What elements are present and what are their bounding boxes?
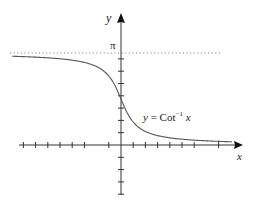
x-axis-arrow-icon bbox=[234, 141, 243, 149]
curve-label-arg: x bbox=[183, 111, 191, 123]
y-axis-arrow-icon bbox=[117, 13, 125, 23]
pi-tick-label: π bbox=[110, 40, 116, 51]
y-axis-label: y bbox=[106, 12, 111, 24]
curve-label: y = Cot−1 x bbox=[143, 111, 191, 123]
cot-inverse-graph bbox=[0, 0, 255, 199]
x-axis-label: x bbox=[237, 151, 242, 162]
curve-label-func: Cot bbox=[160, 111, 176, 123]
curve-label-exponent: −1 bbox=[176, 110, 183, 118]
curve-label-eq: = bbox=[148, 111, 160, 123]
cot-inverse-curve bbox=[12, 56, 232, 142]
